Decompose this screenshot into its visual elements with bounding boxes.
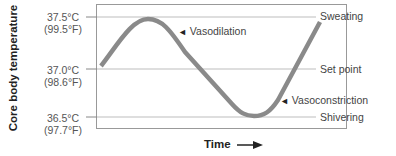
set-point-label: Set point — [320, 63, 361, 75]
vasodilation-annotation: ◄ Vasodilation — [178, 25, 246, 37]
sweating-label: Sweating — [320, 10, 363, 22]
x-axis-label: Time — [204, 138, 263, 150]
arrow-right-icon — [237, 141, 263, 149]
arrow-left-icon: ◄ — [178, 27, 187, 37]
plot-area — [0, 0, 396, 156]
vasoconstriction-annotation: ◄ Vasoconstriction — [280, 94, 368, 106]
shivering-label: Shivering — [320, 111, 364, 123]
arrow-left-icon: ◄ — [280, 96, 289, 106]
x-axis-label-text: Time — [204, 138, 231, 150]
vasodilation-label: Vasodilation — [190, 25, 246, 37]
vasoconstriction-label: Vasoconstriction — [292, 94, 368, 106]
